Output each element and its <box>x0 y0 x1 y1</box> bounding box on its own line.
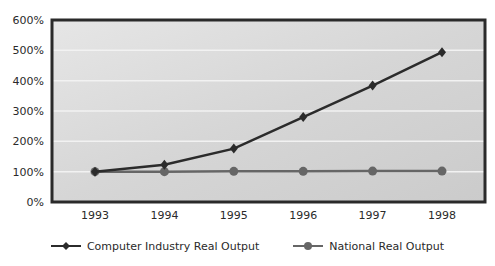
x-tick-label: 1998 <box>428 209 456 222</box>
y-tick-label: 500% <box>13 44 44 57</box>
diamond-icon <box>51 240 81 252</box>
y-tick-label: 0% <box>27 196 44 209</box>
legend-label: National Real Output <box>329 240 444 253</box>
chart-legend: Computer Industry Real Output National R… <box>0 236 495 256</box>
x-tick-label: 1994 <box>150 209 178 222</box>
data-point-circle <box>438 167 447 176</box>
y-tick-label: 100% <box>13 166 44 179</box>
series-line <box>95 171 442 172</box>
y-tick-label: 400% <box>13 75 44 88</box>
legend-label: Computer Industry Real Output <box>87 240 259 253</box>
data-point-circle <box>368 167 377 176</box>
y-tick-label: 200% <box>13 135 44 148</box>
y-tick-label: 300% <box>13 105 44 118</box>
legend-item-computer-industry: Computer Industry Real Output <box>51 240 259 253</box>
data-point-circle <box>229 167 238 176</box>
legend-item-national: National Real Output <box>293 240 444 253</box>
x-tick-label: 1993 <box>81 209 109 222</box>
y-tick-label: 600% <box>13 14 44 27</box>
x-tick-label: 1995 <box>220 209 248 222</box>
data-point-circle <box>299 167 308 176</box>
x-tick-label: 1996 <box>289 209 317 222</box>
x-tick-label: 1997 <box>359 209 387 222</box>
circle-icon <box>293 240 323 252</box>
line-chart: 0%100%200%300%400%500%600%19931994199519… <box>0 0 495 266</box>
